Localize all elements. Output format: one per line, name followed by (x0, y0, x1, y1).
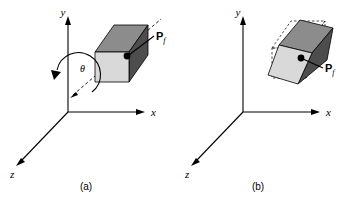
panel-a: y x z (9, 6, 167, 192)
x-axis-arrowhead-a (136, 109, 145, 115)
z-axis-arrowhead-b (191, 158, 200, 166)
z-axis-label-b: z (184, 168, 190, 180)
cube-b (268, 20, 333, 84)
y-axis-arrowhead-a (65, 16, 71, 25)
rotation-figure: y x z (0, 0, 350, 200)
point-label-b: Pf (325, 62, 336, 77)
y-axis-arrowhead-b (240, 16, 246, 25)
z-axis-line-b (197, 112, 243, 160)
figure-container: y x z (0, 0, 350, 200)
z-axis-line-a (22, 112, 68, 160)
z-axis-label-a: z (9, 168, 15, 180)
caption-b: (b) (252, 181, 264, 192)
cube-a (95, 25, 148, 82)
theta-label-a: θ (80, 63, 85, 74)
rotation-arc-a (57, 53, 101, 92)
z-axis-arrowhead-a (16, 158, 25, 166)
rotation-arc-group-a: θ (51, 53, 101, 92)
x-axis-arrowhead-b (311, 109, 320, 115)
x-axis-label-b: x (325, 106, 331, 118)
rotation-arc-arrowhead-a (51, 70, 61, 80)
point-marker-b (298, 55, 305, 62)
caption-a: (a) (80, 181, 92, 192)
y-axis-label-a: y (60, 6, 66, 18)
y-axis-label-b: y (235, 6, 241, 18)
rotation-axis-arrowhead-a (70, 92, 78, 98)
x-axis-label-a: x (150, 106, 156, 118)
point-marker-a (124, 53, 131, 60)
point-label-a: Pf (156, 30, 167, 45)
panel-b: y x z (184, 6, 336, 192)
